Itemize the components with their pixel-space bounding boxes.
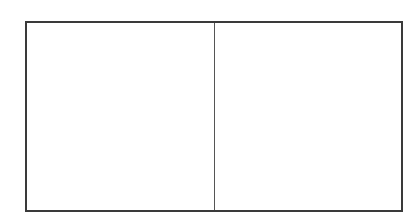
left-panel <box>27 23 215 210</box>
diagram-canvas <box>0 0 416 221</box>
right-panel <box>215 23 402 210</box>
outer-rectangle <box>25 21 403 212</box>
